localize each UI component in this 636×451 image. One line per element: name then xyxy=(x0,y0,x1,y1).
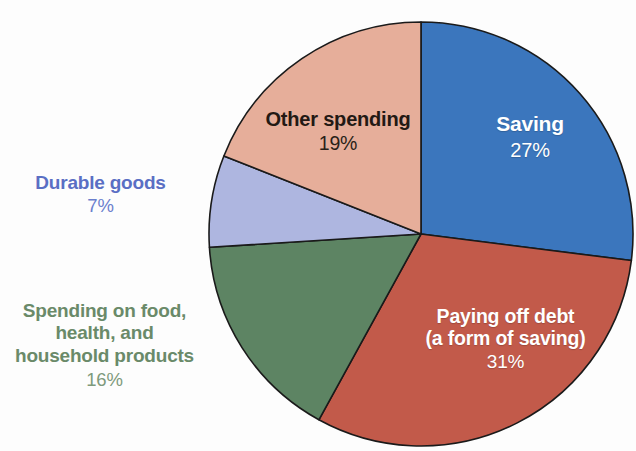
slice-label-food-line3: household products xyxy=(2,345,207,367)
slice-label-saving: Saving 27% xyxy=(455,112,605,161)
slice-label-food-line1: Spending on food, xyxy=(2,300,207,322)
slice-label-durable-percent: 7% xyxy=(8,196,193,217)
slice-label-other-spending: Other spending 19% xyxy=(243,108,433,155)
slice-label-debt-line1: Paying off debt xyxy=(398,305,613,327)
slice-label-other-name: Other spending xyxy=(243,108,433,130)
slice-label-durable-name: Durable goods xyxy=(8,172,193,193)
slice-label-durable-goods: Durable goods 7% xyxy=(8,172,193,217)
slice-label-debt-line2: (a form of saving) xyxy=(398,327,613,349)
slice-label-food-percent: 16% xyxy=(2,370,207,391)
slice-label-debt-percent: 31% xyxy=(398,351,613,372)
slice-label-saving-percent: 27% xyxy=(455,139,605,161)
pie-chart-figure: Saving 27% Paying off debt (a form of sa… xyxy=(0,0,636,451)
slice-label-other-percent: 19% xyxy=(243,133,433,155)
slice-label-spending-food-health-household: Spending on food, health, and household … xyxy=(2,300,207,391)
slice-label-saving-name: Saving xyxy=(455,112,605,136)
slice-label-food-line2: health, and xyxy=(2,322,207,344)
slice-label-paying-off-debt: Paying off debt (a form of saving) 31% xyxy=(398,305,613,373)
pie-slices-group xyxy=(209,22,633,446)
